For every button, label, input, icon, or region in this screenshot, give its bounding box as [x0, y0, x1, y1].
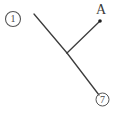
segment-to-point-a — [67, 21, 100, 53]
point-a-dot — [98, 19, 102, 23]
circled-item-number-label: 1 — [6, 12, 20, 26]
segment-upper-left — [34, 14, 67, 53]
point-a-label: A — [96, 3, 106, 17]
segment-lower-right — [67, 53, 99, 95]
geometry-figure-canvas: A 1 7 — [0, 0, 116, 113]
circled-seven-label: 7 — [96, 93, 109, 106]
